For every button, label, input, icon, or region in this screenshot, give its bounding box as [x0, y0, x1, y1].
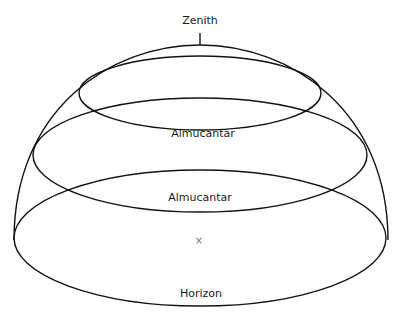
- celestial-dome-diagram: Zenith Almucantar Almucantar Horizon ×: [0, 0, 402, 321]
- almucantar-upper-label: Almucantar: [171, 127, 235, 140]
- almucantar-lower-label: Almucantar: [168, 191, 232, 204]
- horizon-label: Horizon: [180, 287, 222, 300]
- dome-outline: [14, 45, 388, 240]
- observer-mark: ×: [195, 235, 203, 246]
- almucantar-upper-circle: [79, 56, 321, 130]
- zenith-label: Zenith: [182, 14, 218, 27]
